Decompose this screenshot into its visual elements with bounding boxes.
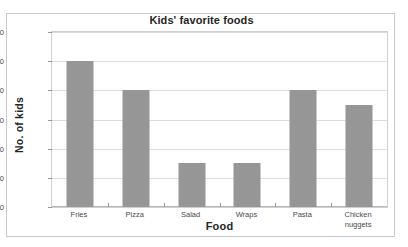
bar-slot [52, 32, 108, 207]
bar[interactable] [66, 61, 93, 207]
x-axis-label: Fries [51, 210, 107, 220]
y-tick-mark [48, 207, 52, 208]
x-axis-label: Wraps [219, 210, 275, 220]
y-axis-title: No. of kids [11, 70, 27, 180]
y-tick-label: 20 [0, 144, 4, 153]
bar-slot [108, 32, 164, 207]
bar[interactable] [122, 90, 149, 207]
x-axis-label: Pasta [274, 210, 330, 220]
y-tick-label: 0 [0, 203, 4, 212]
bar-slot [331, 32, 387, 207]
plot-inner: 0102030405060 [52, 32, 387, 207]
chart-title: Kids' favorite foods [7, 14, 396, 26]
bar-slot [164, 32, 220, 207]
bar[interactable] [346, 105, 373, 207]
y-tick-label: 60 [0, 28, 4, 37]
chart-frame: Kids' favorite foods No. of kids 0102030… [6, 13, 395, 237]
y-tick-label: 50 [0, 57, 4, 66]
bar[interactable] [178, 163, 205, 207]
x-axis-title: Food [51, 220, 388, 232]
bar-slot [275, 32, 331, 207]
x-axis-label: Salad [163, 210, 219, 220]
x-axis-label: Pizza [107, 210, 163, 220]
bar[interactable] [290, 90, 317, 207]
y-axis-title-text: No. of kids [13, 97, 25, 153]
y-tick-label: 30 [0, 115, 4, 124]
y-tick-label: 40 [0, 86, 4, 95]
y-tick-label: 10 [0, 173, 4, 182]
bar-slot [220, 32, 276, 207]
bar[interactable] [234, 163, 261, 207]
plot-area: 0102030405060 [51, 31, 388, 208]
